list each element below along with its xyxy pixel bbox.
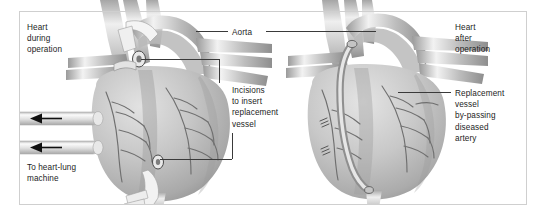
leader-line-aorta-right: [266, 31, 376, 32]
label-heart-during-operation: Heart during operation: [27, 22, 62, 56]
label-replacement-vessel-bypassing-diseased-artery: Replacement vessel by-passing diseased a…: [455, 88, 504, 144]
leader-line-incisions-bottom: [160, 159, 232, 160]
label-aorta: Aorta: [232, 27, 252, 38]
leader-line-replacement-vessel: [398, 92, 451, 93]
leader-line-incisions-vertical-lower: [232, 133, 233, 159]
leader-line-aorta-left: [196, 31, 228, 32]
label-incisions-to-insert-replacement-vessel: Incisions to insert replacement vessel: [232, 85, 278, 130]
leader-line-incisions-top: [141, 59, 219, 60]
label-to-heart-lung-machine: To heart-lung machine: [27, 162, 76, 184]
figure-canvas: Heart during operation To heart-lung mac…: [0, 0, 544, 221]
label-heart-after-operation: Heart after operation: [455, 22, 490, 56]
leader-line-incisions-vertical: [219, 59, 220, 83]
